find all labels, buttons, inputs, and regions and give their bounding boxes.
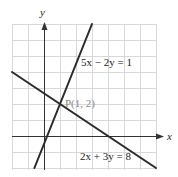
x-axis-label: x bbox=[167, 131, 172, 142]
y-axis-label: y bbox=[40, 7, 45, 18]
y-axis-arrow-icon bbox=[42, 22, 48, 30]
lines bbox=[12, 24, 156, 168]
line-5x-2y-1 bbox=[34, 24, 92, 168]
axes bbox=[12, 22, 164, 170]
line2-label: 2x + 3y = 8 bbox=[80, 151, 131, 162]
line1-label: 5x − 2y = 1 bbox=[81, 57, 132, 68]
x-axis-arrow-icon bbox=[156, 134, 164, 140]
point-label: P(1, 2) bbox=[65, 98, 95, 109]
